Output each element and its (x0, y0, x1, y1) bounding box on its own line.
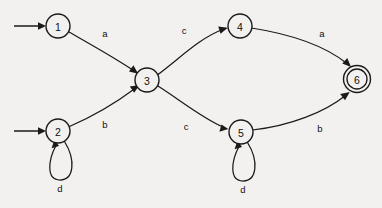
edge-2-to-3 (70, 85, 140, 127)
edge-label-2-3: b (102, 119, 107, 130)
automaton-diagram-canvas: 1 2 3 4 5 6 a b c c a b d (0, 0, 382, 208)
start-marker-state-2 (14, 127, 46, 135)
edge-label-5-6: b (317, 123, 322, 134)
state-circle-1[interactable] (46, 14, 70, 38)
edge-arrow-4-6 (342, 58, 351, 67)
edge-path-5-6 (253, 96, 346, 131)
start-arrow-head-2 (38, 127, 46, 135)
start-arrow-head-1 (38, 22, 46, 30)
edge-3-to-4 (158, 26, 228, 74)
state-circle-2[interactable] (46, 119, 70, 143)
edge-path-4-6 (252, 28, 348, 64)
state-node-3[interactable]: 3 (135, 68, 159, 92)
state-circle-3[interactable] (135, 68, 159, 92)
self-loop-state-2 (50, 140, 72, 181)
edge-path-3-5 (158, 86, 223, 127)
state-node-2[interactable]: 2 (46, 119, 70, 143)
edge-5-to-6 (253, 92, 350, 130)
edge-label-3-4: c (182, 25, 187, 36)
state-node-1[interactable]: 1 (46, 14, 70, 38)
self-loop-state-5 (233, 141, 255, 182)
edge-label-4-6: a (319, 28, 325, 39)
edge-label-3-5: c (184, 121, 189, 132)
edge-1-to-3 (69, 32, 138, 74)
self-loop-label-2: d (57, 183, 62, 194)
state-node-5[interactable]: 5 (229, 120, 253, 144)
edge-4-to-6 (252, 28, 352, 67)
start-marker-state-1 (14, 22, 46, 30)
edge-3-to-5 (158, 86, 228, 132)
edge-label-1-3: a (102, 28, 108, 39)
edge-path-2-3 (70, 89, 136, 127)
edge-arrow-3-4 (218, 26, 228, 33)
state-circle-5[interactable] (229, 120, 253, 144)
edge-path-3-4 (158, 30, 223, 75)
state-node-6-accepting[interactable]: 6 (344, 66, 371, 93)
edge-path-1-3 (69, 32, 134, 71)
state-node-4[interactable]: 4 (228, 14, 252, 38)
self-loop-label-5: d (240, 184, 245, 195)
state-circle-4[interactable] (228, 14, 252, 38)
automaton-svg: 1 2 3 4 5 6 a b c c a b d (0, 0, 382, 208)
